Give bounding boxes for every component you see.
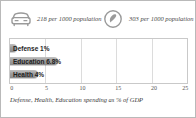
bar-row-education: Education 6.8%: [10, 55, 187, 66]
chart-caption: Defense, Health, Education spending as %…: [10, 95, 188, 104]
stats-row: 218 per 1000 population 303 per 1000 pop…: [6, 5, 190, 37]
stat-phones: 303 per 1000 population: [101, 8, 193, 30]
bar-label-education: Education 6.8%: [13, 57, 61, 64]
bar-label-health: Health 4%: [13, 71, 44, 78]
x-tick-5: 5: [45, 85, 48, 91]
car-icon: [9, 8, 33, 30]
x-tick-15: 15: [115, 85, 121, 91]
x-axis: 0 5 10 15 20 25: [9, 84, 188, 94]
chart-bars: Defense 1% Education 6.8% Health 4%: [10, 39, 187, 83]
bar-label-defense: Defense 1%: [13, 44, 50, 51]
x-tick-20: 20: [151, 85, 157, 91]
stat-vehicles: 218 per 1000 population: [9, 8, 101, 30]
x-tick-10: 10: [79, 85, 85, 91]
phone-circle-icon: [101, 8, 125, 30]
bar-chart-plot: Defense 1% Education 6.8% Health 4%: [9, 38, 188, 84]
bar-row-defense: Defense 1%: [10, 42, 187, 53]
bar-row-health: Health 4%: [10, 69, 187, 80]
x-tick-0: 0: [10, 85, 13, 91]
infographic-card: 218 per 1000 population 303 per 1000 pop…: [0, 0, 196, 118]
x-tick-25: 25: [182, 85, 188, 91]
stat-vehicles-label: 218 per 1000 population: [37, 15, 101, 23]
stat-phones-label: 303 per 1000 population: [129, 15, 193, 23]
